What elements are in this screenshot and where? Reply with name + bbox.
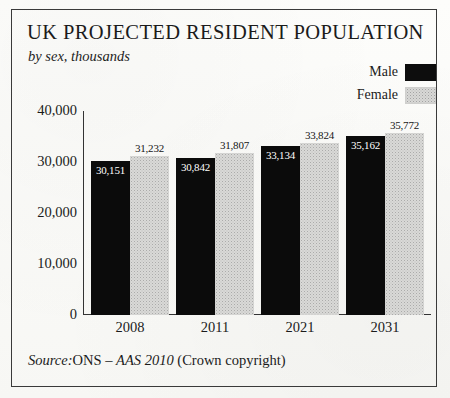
bar-value-label: 30,151 bbox=[91, 164, 130, 176]
bar-group: 30,15131,232 bbox=[91, 111, 169, 315]
bar-female[interactable]: 33,824 bbox=[300, 143, 339, 316]
bar-group: 35,16235,772 bbox=[346, 111, 424, 315]
bar-female[interactable]: 31,232 bbox=[130, 156, 169, 315]
bar-value-label: 35,772 bbox=[385, 119, 424, 131]
y-axis-tick-label: 40,000 bbox=[5, 102, 77, 119]
y-axis-ticks: 40,00030,00020,00010,0000 bbox=[3, 0, 77, 398]
y-axis-tick-label: 10,000 bbox=[5, 255, 77, 272]
bar-male[interactable]: 33,134 bbox=[261, 146, 300, 315]
source-note: Source:ONS – AAS 2010 (Crown copyright) bbox=[28, 352, 286, 369]
bar-group: 33,13433,824 bbox=[261, 111, 339, 315]
legend-item-male: Male bbox=[330, 62, 436, 82]
figure-page: UK PROJECTED RESIDENT POPULATION by sex,… bbox=[0, 0, 450, 398]
plot-area: 30,15131,23230,84231,80733,13433,82435,1… bbox=[83, 111, 430, 315]
bar-value-label: 35,162 bbox=[346, 139, 385, 151]
legend-item-female: Female bbox=[330, 85, 436, 105]
bar-male[interactable]: 30,151 bbox=[91, 161, 130, 315]
bar-value-label: 31,232 bbox=[130, 142, 169, 154]
bar-value-label: 33,134 bbox=[261, 149, 300, 161]
bar-value-label: 33,824 bbox=[300, 129, 339, 141]
legend-label-male: Male bbox=[369, 64, 398, 80]
source-body: ONS – bbox=[73, 352, 117, 368]
bar-male[interactable]: 30,842 bbox=[176, 158, 215, 315]
legend-label-female: Female bbox=[357, 87, 398, 103]
legend-swatch-male-icon bbox=[405, 64, 436, 81]
y-axis-tick-label: 20,000 bbox=[5, 204, 77, 221]
x-axis-tick-label: 2031 bbox=[330, 319, 440, 336]
bar-value-label: 31,807 bbox=[215, 139, 254, 151]
legend: Male Female bbox=[330, 62, 436, 108]
y-axis-tick-label: 0 bbox=[5, 306, 77, 323]
bar-group: 30,84231,807 bbox=[176, 111, 254, 315]
source-prefix: Source: bbox=[28, 352, 73, 368]
bar-female[interactable]: 35,772 bbox=[385, 133, 424, 315]
y-axis-tick-label: 30,000 bbox=[5, 153, 77, 170]
bar-value-label: 30,842 bbox=[176, 161, 215, 173]
source-reference: AAS 2010 bbox=[116, 352, 174, 368]
page-title: UK PROJECTED RESIDENT POPULATION bbox=[27, 21, 424, 44]
bar-female[interactable]: 31,807 bbox=[215, 153, 254, 315]
source-suffix: (Crown copyright) bbox=[174, 352, 286, 368]
legend-swatch-female-icon bbox=[405, 87, 436, 104]
bar-male[interactable]: 35,162 bbox=[346, 136, 385, 315]
